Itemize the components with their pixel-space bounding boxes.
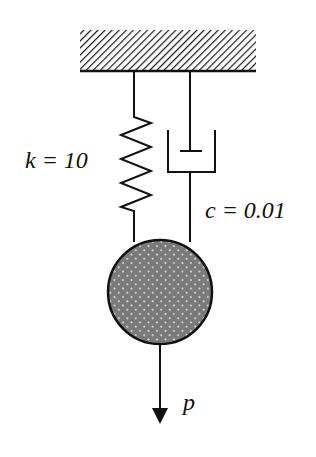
spring-mass-damper-diagram: k = 10 c = 0.01 p	[0, 0, 316, 457]
ceiling-support	[80, 30, 256, 71]
ceiling-hatch	[80, 30, 256, 70]
force-label: p	[181, 389, 195, 415]
spring	[121, 71, 151, 242]
spring-label: k = 10	[25, 147, 88, 173]
force-arrow	[152, 344, 168, 424]
damper-label: c = 0.01	[205, 197, 286, 223]
mass-circle	[108, 240, 212, 344]
arrow-head-icon	[152, 408, 168, 424]
